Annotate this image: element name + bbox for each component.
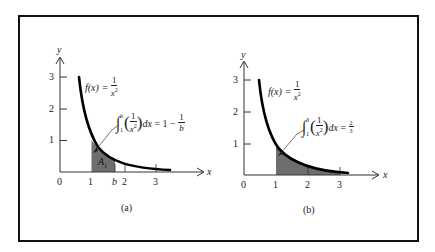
x-axis-label-b: x [383, 170, 387, 180]
area-label-a1: A1 [98, 157, 107, 169]
y-tick-3-a: 3 [49, 72, 54, 82]
y-tick-1-b: 1 [233, 139, 238, 149]
integral-formula-b: ∫ 31 ( 1x2 ) dx = 23 [302, 116, 354, 138]
y-tick-3-b: 3 [233, 75, 238, 85]
function-label-a: f(x) = 1x2 [85, 76, 118, 98]
graphs-svg [0, 0, 435, 252]
x-axis-label-a: x [207, 167, 211, 177]
x-tick-3-b: 3 [337, 180, 342, 190]
y-axis-label-a: y [57, 45, 61, 55]
x-tick-3-a: 3 [153, 177, 158, 187]
x-tick-2-b: 2 [305, 180, 310, 190]
y-tick-2-b: 2 [233, 107, 238, 117]
y-axis-label-b: y [241, 50, 245, 60]
x-tick-b-a: b [112, 177, 117, 187]
x-tick-0-b: 0 [241, 180, 246, 190]
y-tick-2-a: 2 [49, 104, 54, 114]
caption-a: (a) [121, 203, 132, 213]
x-tick-1-a: 1 [88, 177, 93, 187]
caption-b: (b) [303, 205, 315, 215]
x-tick-1-b: 1 [273, 180, 278, 190]
y-tick-1-a: 1 [49, 135, 54, 145]
integral-formula-a: ∫ b1 ( 1x2 ) dx = 1 − 1b [116, 112, 185, 134]
function-label-b: f(x) = 1x2 [268, 80, 301, 102]
x-tick-2-a: 2 [122, 177, 127, 187]
x-tick-0-a: 0 [57, 177, 62, 187]
